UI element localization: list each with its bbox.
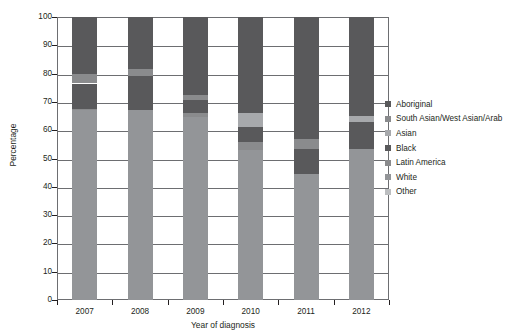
legend-item[interactable]: White	[385, 170, 521, 185]
bar-2010[interactable]	[238, 17, 263, 300]
legend-label: Asian	[396, 129, 416, 138]
x-axis-tick	[57, 300, 58, 305]
chart-root: Percentage 0102030405060708090100 200720…	[0, 0, 523, 336]
bar-segment[interactable]	[128, 110, 153, 300]
x-axis-tick-label: 2012	[341, 307, 381, 316]
bar-segment[interactable]	[183, 17, 208, 95]
x-axis-tick	[168, 300, 169, 305]
x-axis-tick-label: 2009	[175, 307, 215, 316]
legend-item[interactable]: Asian	[385, 126, 521, 141]
legend-label: White	[396, 173, 417, 182]
bar-segment[interactable]	[128, 69, 153, 76]
bar-segment[interactable]	[294, 17, 319, 139]
legend-swatch-icon	[385, 101, 391, 107]
bar-segment[interactable]	[72, 84, 97, 109]
bar-segment[interactable]	[128, 76, 153, 110]
bars-layer	[57, 17, 389, 300]
bar-segment[interactable]	[294, 139, 319, 149]
legend-label: Latin America	[396, 158, 446, 167]
y-axis-tick-label: 100	[26, 13, 52, 21]
y-axis-tick-label: 40	[26, 183, 52, 191]
legend-label: South Asian/West Asian/Arab	[396, 114, 502, 123]
bar-2011[interactable]	[294, 17, 319, 300]
bar-segment[interactable]	[294, 174, 319, 300]
bar-segment[interactable]	[349, 149, 374, 300]
y-axis-tick-label: 30	[26, 211, 52, 219]
bar-segment[interactable]	[238, 127, 263, 141]
x-axis-tick-label: 2008	[120, 307, 160, 316]
bar-segment[interactable]	[349, 17, 374, 116]
y-axis-tick-label: 90	[26, 41, 52, 49]
bar-segment[interactable]	[72, 74, 97, 84]
bar-2009[interactable]	[183, 17, 208, 300]
x-axis-tick	[223, 300, 224, 305]
x-axis-title: Year of diagnosis	[57, 320, 389, 330]
bar-segment[interactable]	[183, 100, 208, 113]
chart-legend: AboriginalSouth Asian/West Asian/ArabAsi…	[385, 97, 521, 199]
x-axis-tick-label: 2010	[231, 307, 271, 316]
legend-swatch-icon	[385, 130, 391, 136]
x-axis-tick	[278, 300, 279, 305]
bar-segment[interactable]	[238, 142, 263, 150]
x-axis-tick-label: 2007	[65, 307, 105, 316]
bar-segment[interactable]	[238, 113, 263, 127]
bar-segment[interactable]	[183, 95, 208, 101]
legend-item[interactable]: Latin America	[385, 155, 521, 170]
bar-segment[interactable]	[183, 113, 208, 117]
y-axis-tick-label: 50	[26, 155, 52, 163]
legend-label: Other	[396, 187, 416, 196]
bar-2007[interactable]	[72, 17, 97, 300]
y-axis-tick-label: 80	[26, 70, 52, 78]
y-axis-tick-label: 20	[26, 239, 52, 247]
y-axis-tick-label: 70	[26, 98, 52, 106]
bar-segment[interactable]	[72, 109, 97, 110]
legend-swatch-icon	[385, 160, 391, 166]
bar-segment[interactable]	[128, 17, 153, 69]
legend-swatch-icon	[385, 189, 391, 195]
legend-item[interactable]: Other	[385, 185, 521, 200]
bar-segment[interactable]	[238, 17, 263, 113]
legend-swatch-icon	[385, 145, 391, 151]
bar-2012[interactable]	[349, 17, 374, 300]
legend-swatch-icon	[385, 116, 391, 122]
bar-segment[interactable]	[349, 116, 374, 122]
legend-item[interactable]: Aboriginal	[385, 97, 521, 112]
x-axis-tick	[112, 300, 113, 305]
y-axis-tick-label: 10	[26, 268, 52, 276]
y-axis-tick-label: 0	[26, 296, 52, 304]
bar-2008[interactable]	[128, 17, 153, 300]
bar-segment[interactable]	[349, 122, 374, 149]
y-axis: 0102030405060708090100	[0, 0, 52, 336]
bar-segment[interactable]	[72, 110, 97, 300]
bar-segment[interactable]	[294, 149, 319, 174]
x-axis-tick	[334, 300, 335, 305]
bar-segment[interactable]	[238, 150, 263, 300]
bar-segment[interactable]	[183, 117, 208, 300]
legend-label: Black	[396, 144, 416, 153]
bar-segment[interactable]	[72, 17, 97, 74]
legend-label: Aboriginal	[396, 100, 432, 109]
legend-item[interactable]: South Asian/West Asian/Arab	[385, 112, 521, 127]
legend-swatch-icon	[385, 174, 391, 180]
x-axis-tick	[389, 300, 390, 305]
legend-item[interactable]: Black	[385, 141, 521, 156]
x-axis-tick-label: 2011	[286, 307, 326, 316]
y-axis-tick-label: 60	[26, 126, 52, 134]
